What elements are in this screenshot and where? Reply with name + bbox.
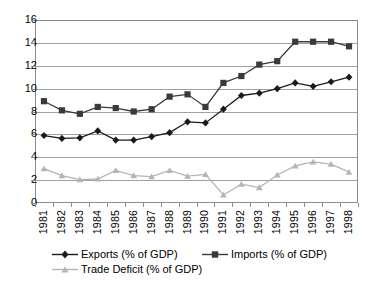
x-axis-tick-mark bbox=[161, 203, 162, 207]
legend-label-exports: Exports (% of GDP) bbox=[81, 247, 178, 262]
diamond-marker-icon bbox=[52, 249, 78, 260]
x-axis-tick-label: 1984 bbox=[92, 210, 103, 234]
x-axis-tick-mark bbox=[125, 203, 126, 207]
x-axis-tick-mark bbox=[340, 203, 341, 207]
x-axis-tick-label: 1983 bbox=[74, 210, 85, 234]
gridline bbox=[36, 66, 357, 67]
x-axis-tick-mark bbox=[250, 203, 251, 207]
y-axis-tick-mark bbox=[31, 157, 35, 158]
x-axis-tick-label: 1995 bbox=[289, 210, 300, 234]
x-axis-tick-label: 1986 bbox=[128, 210, 139, 234]
y-axis-tick-mark bbox=[31, 66, 35, 67]
legend: Exports (% of GDP) Imports (% of GDP) bbox=[52, 247, 352, 277]
legend-row-2: Trade Deficit (% of GDP) bbox=[52, 262, 352, 277]
x-axis-tick-label: 1989 bbox=[182, 210, 193, 234]
x-axis-tick-label: 1988 bbox=[164, 210, 175, 234]
gridline bbox=[36, 89, 357, 90]
gridline bbox=[36, 112, 357, 113]
x-axis-tick-label: 1993 bbox=[253, 210, 264, 234]
x-axis-tick-mark bbox=[107, 203, 108, 207]
x-axis-tick-label: 1985 bbox=[110, 210, 121, 234]
gridline bbox=[36, 134, 357, 135]
x-axis-tick-label: 1992 bbox=[235, 210, 246, 234]
x-axis-tick-mark bbox=[214, 203, 215, 207]
x-axis-tick-mark bbox=[179, 203, 180, 207]
x-axis-tick-label: 1996 bbox=[307, 210, 318, 234]
x-axis-tick-label: 1981 bbox=[38, 210, 49, 234]
gridline bbox=[36, 180, 357, 181]
x-axis-tick-label: 1991 bbox=[217, 210, 228, 234]
y-axis-tick-mark bbox=[31, 43, 35, 44]
gridline bbox=[36, 43, 357, 44]
y-axis-tick-mark bbox=[31, 20, 35, 21]
x-axis-tick-mark bbox=[53, 203, 54, 207]
x-axis-tick-mark bbox=[71, 203, 72, 207]
x-axis-tick-mark bbox=[143, 203, 144, 207]
x-axis-tick-label: 1982 bbox=[56, 210, 67, 234]
legend-item-exports: Exports (% of GDP) bbox=[52, 247, 202, 262]
gridline bbox=[36, 157, 357, 158]
plot-area bbox=[35, 20, 358, 203]
y-axis-tick-mark bbox=[31, 112, 35, 113]
x-axis-tick-mark bbox=[286, 203, 287, 207]
x-axis-tick-mark bbox=[358, 203, 359, 207]
x-axis-tick-label: 1990 bbox=[199, 210, 210, 234]
triangle-marker-icon bbox=[52, 264, 78, 275]
legend-item-imports: Imports (% of GDP) bbox=[202, 247, 352, 262]
x-axis-tick-label: 1994 bbox=[271, 210, 282, 234]
line-chart: 0246810121416 19811982198319841985198619… bbox=[0, 0, 376, 289]
x-axis-tick-label: 1987 bbox=[146, 210, 157, 234]
y-axis-tick-mark bbox=[31, 180, 35, 181]
x-axis-tick-label: 1998 bbox=[343, 210, 354, 234]
x-axis-tick-mark bbox=[322, 203, 323, 207]
legend-item-trade-deficit: Trade Deficit (% of GDP) bbox=[52, 262, 202, 277]
y-axis-tick-mark bbox=[31, 89, 35, 90]
legend-label-imports: Imports (% of GDP) bbox=[231, 247, 327, 262]
x-axis-tick-mark bbox=[35, 203, 36, 207]
x-axis-tick-label: 1997 bbox=[325, 210, 336, 234]
x-axis-tick-mark bbox=[89, 203, 90, 207]
y-axis-tick-mark bbox=[31, 134, 35, 135]
legend-label-trade-deficit: Trade Deficit (% of GDP) bbox=[81, 262, 202, 277]
x-axis-tick-mark bbox=[232, 203, 233, 207]
x-axis-tick-mark bbox=[268, 203, 269, 207]
square-marker-icon bbox=[202, 249, 228, 260]
x-axis-tick-mark bbox=[304, 203, 305, 207]
x-axis-tick-mark bbox=[197, 203, 198, 207]
legend-row-1: Exports (% of GDP) Imports (% of GDP) bbox=[52, 247, 352, 262]
